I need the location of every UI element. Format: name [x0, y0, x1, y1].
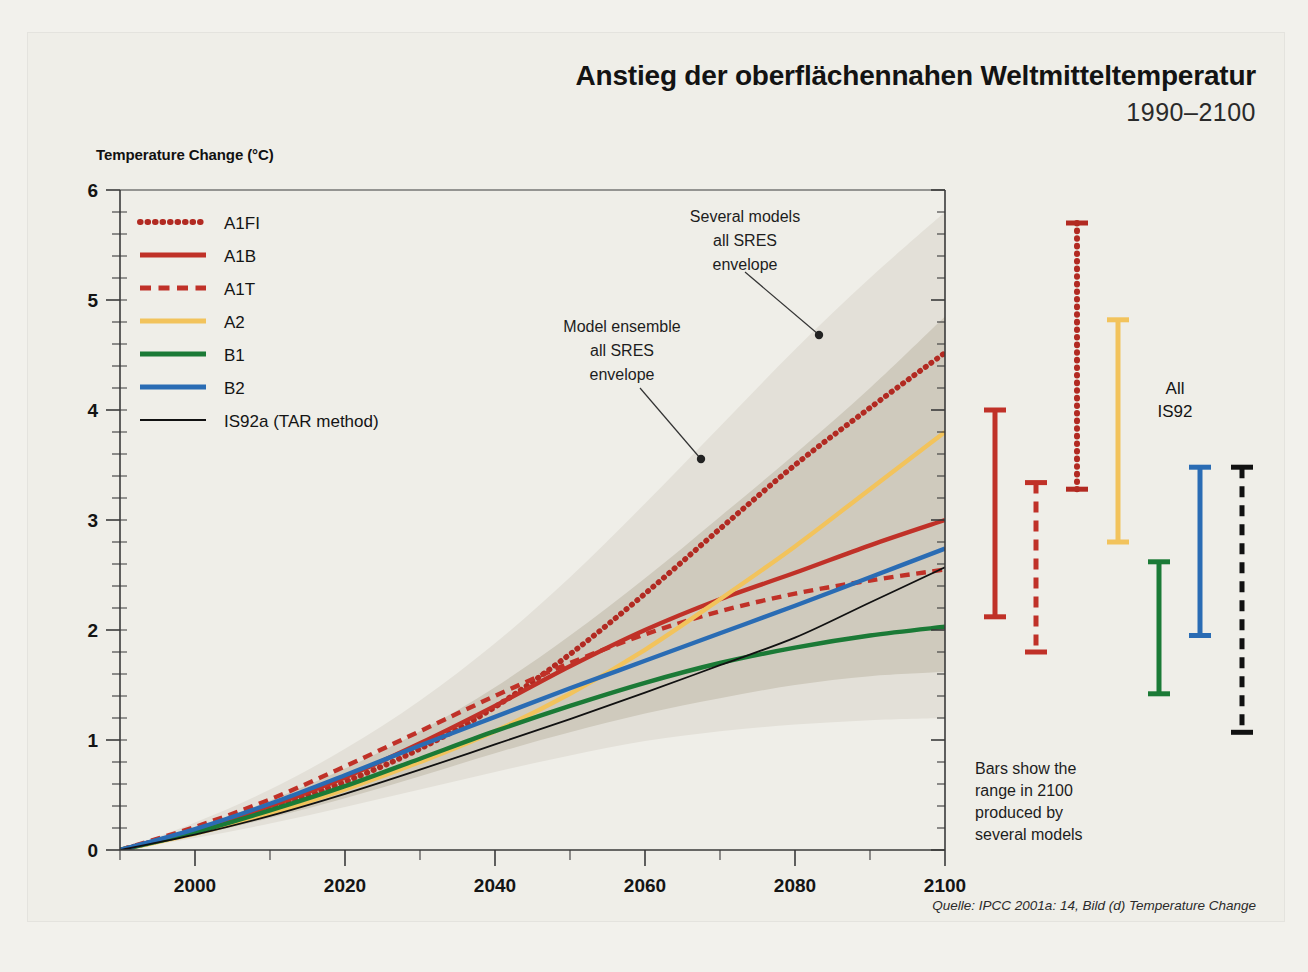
legend-label-b1[interactable]: B1 — [224, 346, 245, 365]
y-axis-ticks: 0123456 — [87, 180, 127, 861]
y-tick-label: 6 — [87, 180, 98, 201]
envelope-bands — [120, 212, 945, 850]
x-tick-label: 2000 — [174, 875, 216, 896]
range-bars-2100 — [984, 223, 1253, 732]
y-tick-label: 1 — [87, 730, 98, 751]
legend-label-a1t[interactable]: A1T — [224, 280, 255, 299]
legend-label-a1fi[interactable]: A1FI — [224, 214, 260, 233]
y-tick-label: 5 — [87, 290, 98, 311]
figure-page: Anstieg der oberflächennahen Weltmittelt… — [0, 0, 1308, 972]
x-tick-label: 2080 — [774, 875, 816, 896]
y-tick-label: 0 — [87, 840, 98, 861]
annotation-dot — [697, 455, 705, 463]
y-tick-label: 3 — [87, 510, 98, 531]
svg-text:Bars show therange in 2100prod: Bars show therange in 2100produced bysev… — [975, 760, 1083, 843]
y-tick-label: 2 — [87, 620, 98, 641]
legend-label-a2[interactable]: A2 — [224, 313, 245, 332]
x-axis-ticks: 200020202040206020802100 — [120, 850, 966, 896]
legend-label-b2[interactable]: B2 — [224, 379, 245, 398]
svg-text:Model ensembleall SRESenvelope: Model ensembleall SRESenvelope — [563, 318, 681, 383]
y-tick-label: 4 — [87, 400, 98, 421]
bars-note: Bars show therange in 2100produced bysev… — [975, 760, 1083, 843]
legend-label-is92a[interactable]: IS92a (TAR method) — [224, 412, 379, 431]
temperature-projection-chart: 0123456 200020202040206020802100 A1FIA1B… — [0, 0, 1308, 972]
svg-text:AllIS92: AllIS92 — [1158, 379, 1193, 421]
x-tick-label: 2100 — [924, 875, 966, 896]
annotation-several-models: Several modelsall SRESenvelope — [690, 208, 823, 339]
legend-label-a1b[interactable]: A1B — [224, 247, 256, 266]
annotation-model-ensemble: Model ensembleall SRESenvelope — [563, 318, 705, 463]
x-tick-label: 2040 — [474, 875, 516, 896]
svg-text:Several modelsall SRESenvelope: Several modelsall SRESenvelope — [690, 208, 800, 273]
chart-legend[interactable]: A1FIA1BA1TA2B1B2IS92a (TAR method) — [140, 214, 379, 431]
all-is92-label: AllIS92 — [1158, 379, 1193, 421]
annotation-dot — [815, 331, 823, 339]
x-tick-label: 2020 — [324, 875, 366, 896]
x-tick-label: 2060 — [624, 875, 666, 896]
